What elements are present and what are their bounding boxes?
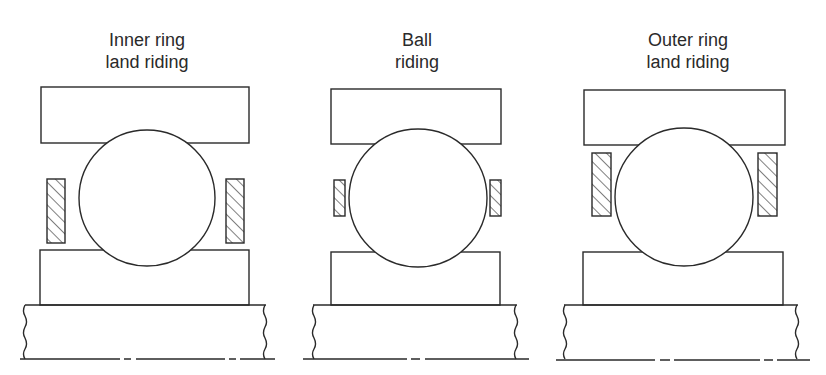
shaft [556,305,810,360]
ball [349,129,487,267]
cage-right [226,179,244,243]
panel-label-outer-ring: Outer ring land riding [588,29,788,73]
cage-right [490,180,501,216]
cage-right [758,153,777,216]
cage-left [334,180,345,216]
shaft [303,305,529,359]
panel-ball-riding [303,89,529,359]
panel-label-inner-ring: Inner ring land riding [47,29,247,73]
shaft [20,305,275,359]
label-line-2: land riding [47,51,247,73]
label-line-1: Inner ring [47,29,247,51]
label-line-2: land riding [588,51,788,73]
label-line-2: riding [317,51,517,73]
label-line-1: Outer ring [588,29,788,51]
cage-left [592,153,611,216]
panel-label-ball-riding: Ball riding [317,29,517,73]
panel-inner-ring-land-riding [20,87,275,359]
panel-outer-ring-land-riding [556,90,810,360]
ball [79,130,215,266]
ball [615,128,753,266]
cage-left [47,179,65,243]
label-line-1: Ball [317,29,517,51]
